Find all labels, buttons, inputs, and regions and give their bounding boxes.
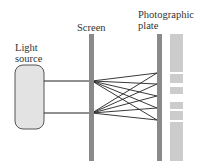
pattern-band: [170, 122, 183, 161]
photographic-plate-bar: [157, 34, 162, 161]
light-source-label-line1: Light: [15, 42, 42, 53]
pattern-band: [170, 102, 183, 109]
pattern-band: [170, 87, 183, 94]
light-rays: [44, 73, 157, 120]
screen-label: Screen: [77, 22, 106, 33]
plate-label-line2: plate: [138, 20, 194, 31]
pattern-band: [170, 34, 183, 72]
diffracted-ray: [92, 73, 157, 113]
pattern-band: [170, 111, 183, 120]
interference-pattern: [170, 34, 183, 161]
diffracted-ray: [92, 73, 157, 81]
light-source-label-line2: source: [15, 53, 42, 64]
pattern-band: [170, 74, 183, 83]
light-source-label: Light source: [15, 42, 42, 64]
diffracted-ray: [92, 81, 157, 108]
light-source-box: [15, 65, 44, 129]
screen-bar: [89, 34, 94, 161]
plate-label-line1: Photographic: [138, 9, 194, 20]
photographic-plate-label: Photographic plate: [138, 9, 194, 31]
